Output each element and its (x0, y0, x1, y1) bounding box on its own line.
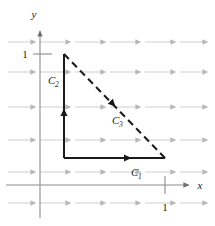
svg-text:1: 1 (138, 172, 142, 181)
vector-field-figure: y x 1 1 C 2 C 3 C 1 (0, 0, 215, 226)
y-tick-label-1: 1 (22, 48, 28, 60)
x-axis-label: x (197, 179, 203, 191)
curve-c3-label: C 3 (112, 114, 123, 129)
closed-path (64, 54, 165, 158)
svg-text:2: 2 (55, 80, 59, 89)
curve-c1-label: C 1 (131, 166, 142, 181)
svg-text:3: 3 (118, 120, 123, 129)
curve-c2-label: C 2 (48, 74, 59, 89)
curve-c3-segment (64, 54, 165, 158)
axes (6, 31, 189, 218)
y-axis-label: y (31, 8, 37, 20)
figure-canvas: y x 1 1 C 2 C 3 C 1 (0, 0, 215, 226)
vector-field (8, 42, 203, 203)
x-tick-label-1: 1 (162, 201, 168, 213)
